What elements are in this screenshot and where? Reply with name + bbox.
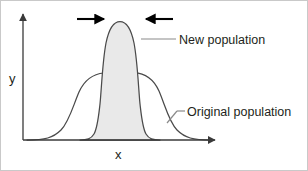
x-axis-label: x	[115, 147, 122, 162]
distribution-plot	[1, 1, 308, 171]
callout-label-original-population: Original population	[187, 105, 291, 119]
stabilizing-selection-figure: y x New population Original population	[0, 0, 308, 171]
callout-label-new-population: New population	[179, 33, 265, 47]
leader-line-original-population	[167, 111, 177, 123]
y-axis-label: y	[9, 71, 16, 86]
